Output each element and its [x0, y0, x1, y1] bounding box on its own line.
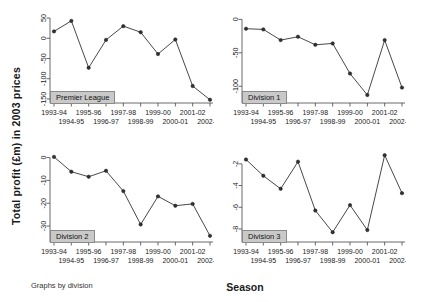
- svg-text:2001-02: 2001-02: [372, 248, 398, 255]
- svg-text:-4: -4: [231, 182, 240, 188]
- svg-text:-8: -8: [231, 226, 240, 232]
- plot-area-0: 500-50-100-1501993-941994-951995-961996-…: [24, 4, 214, 144]
- svg-text:1996-97: 1996-97: [285, 118, 311, 125]
- chart-panel-division-1: 0-50-1001993-941994-951995-961996-971997…: [216, 4, 406, 144]
- svg-text:-50: -50: [39, 53, 48, 63]
- chart-panel-premier-league: 500-50-100-1501993-941994-951995-961996-…: [24, 4, 214, 144]
- svg-text:1998-99: 1998-99: [128, 118, 154, 125]
- svg-text:2001-02: 2001-02: [372, 109, 398, 116]
- plot-area-3: -2-4-6-81993-941994-951995-961996-971997…: [216, 143, 406, 283]
- chart-panel-division-2: 0-10-20-301993-941994-951995-961996-9719…: [24, 143, 214, 283]
- panel-label-0: Premier League: [50, 91, 115, 104]
- panel-label-1: Division 1: [242, 91, 287, 104]
- svg-text:1996-97: 1996-97: [93, 257, 119, 264]
- svg-text:50: 50: [39, 14, 48, 22]
- svg-text:2002-03: 2002-03: [389, 118, 406, 125]
- svg-text:1999-00: 1999-00: [337, 109, 363, 116]
- plot-area-2: 0-10-20-301993-941994-951995-961996-9719…: [24, 143, 214, 283]
- svg-text:1993-94: 1993-94: [41, 248, 67, 255]
- svg-text:1993-94: 1993-94: [233, 248, 259, 255]
- svg-text:-100: -100: [231, 79, 240, 93]
- svg-text:2002-03: 2002-03: [197, 257, 214, 264]
- svg-text:1999-00: 1999-00: [145, 248, 171, 255]
- chart-panel-division-3: -2-4-6-81993-941994-951995-961996-971997…: [216, 143, 406, 283]
- svg-text:2000-01: 2000-01: [354, 257, 380, 264]
- svg-text:1997-98: 1997-98: [110, 248, 136, 255]
- svg-text:-100: -100: [39, 72, 48, 86]
- figure-panel-chart: Total profit (£m) in 2003 prices Season …: [0, 0, 430, 302]
- svg-text:1994-95: 1994-95: [250, 257, 276, 264]
- svg-text:1995-96: 1995-96: [76, 109, 102, 116]
- svg-text:1993-94: 1993-94: [41, 109, 67, 116]
- svg-text:1996-97: 1996-97: [93, 118, 119, 125]
- svg-text:2000-01: 2000-01: [162, 257, 188, 264]
- svg-text:1999-00: 1999-00: [337, 248, 363, 255]
- svg-text:2002-03: 2002-03: [389, 257, 406, 264]
- svg-text:0: 0: [39, 36, 48, 40]
- svg-text:1995-96: 1995-96: [268, 109, 294, 116]
- svg-text:2001-02: 2001-02: [180, 248, 206, 255]
- svg-text:1997-98: 1997-98: [302, 109, 328, 116]
- svg-text:2000-01: 2000-01: [162, 118, 188, 125]
- svg-text:1997-98: 1997-98: [110, 109, 136, 116]
- svg-text:2002-03: 2002-03: [197, 118, 214, 125]
- y-axis-title: Total profit (£m) in 2003 prices: [10, 21, 22, 271]
- svg-text:0: 0: [39, 156, 48, 160]
- svg-text:1995-96: 1995-96: [76, 248, 102, 255]
- svg-text:1998-99: 1998-99: [128, 257, 154, 264]
- svg-text:1994-95: 1994-95: [250, 118, 276, 125]
- svg-text:-6: -6: [231, 204, 240, 210]
- panel-label-2: Division 2: [50, 230, 95, 243]
- svg-text:-2: -2: [231, 161, 240, 167]
- svg-text:1998-99: 1998-99: [320, 257, 346, 264]
- svg-text:1995-96: 1995-96: [268, 248, 294, 255]
- svg-text:-50: -50: [231, 48, 240, 58]
- svg-text:2001-02: 2001-02: [180, 109, 206, 116]
- svg-text:1999-00: 1999-00: [145, 109, 171, 116]
- svg-text:-150: -150: [39, 92, 48, 106]
- svg-text:2000-01: 2000-01: [354, 118, 380, 125]
- svg-text:-10: -10: [39, 175, 48, 185]
- svg-text:0: 0: [231, 17, 240, 21]
- svg-text:1993-94: 1993-94: [233, 109, 259, 116]
- svg-text:-30: -30: [39, 221, 48, 231]
- plot-area-1: 0-50-1001993-941994-951995-961996-971997…: [216, 4, 406, 144]
- svg-text:1997-98: 1997-98: [302, 248, 328, 255]
- svg-text:-20: -20: [39, 198, 48, 208]
- svg-text:1996-97: 1996-97: [285, 257, 311, 264]
- panel-label-3: Division 3: [242, 230, 287, 243]
- svg-text:1994-95: 1994-95: [58, 118, 84, 125]
- svg-text:1998-99: 1998-99: [320, 118, 346, 125]
- svg-text:1994-95: 1994-95: [58, 257, 84, 264]
